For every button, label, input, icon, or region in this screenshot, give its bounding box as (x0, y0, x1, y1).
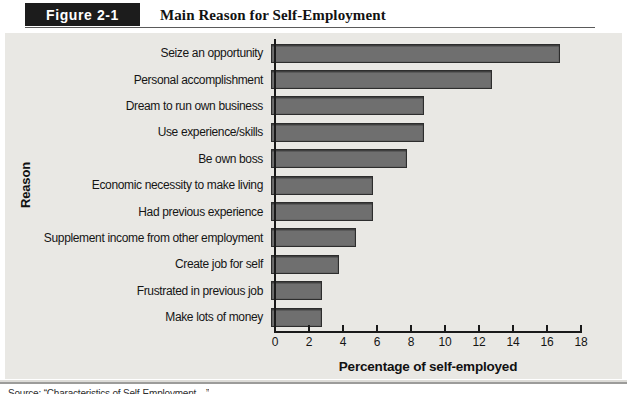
bar-track (271, 146, 577, 172)
bar-row: Be own boss (13, 146, 577, 172)
bar (271, 176, 373, 195)
x-tick-label: 18 (575, 335, 588, 349)
chart-panel: Reason Seize an opportunityPersonal acco… (5, 33, 622, 379)
bar-track (271, 172, 577, 198)
x-tick-mark (308, 325, 310, 331)
x-tick-mark (444, 325, 446, 331)
category-label: Economic necessity to make living (13, 178, 271, 192)
bar (271, 123, 424, 142)
x-tick-mark (478, 325, 480, 331)
x-tick-label: 10 (439, 335, 452, 349)
bar-track (271, 198, 577, 224)
bar-track (271, 66, 577, 92)
x-tick-label: 12 (473, 335, 486, 349)
figure-title: Main Reason for Self-Employment (160, 7, 386, 24)
x-tick-mark (546, 325, 548, 331)
bar-row: Personal accomplishment (13, 66, 577, 92)
bar (271, 228, 356, 247)
bar-row: Seize an opportunity (13, 40, 577, 66)
x-tick-label: 6 (374, 335, 380, 349)
bar (271, 96, 424, 115)
figure-label-badge: Figure 2-1 (25, 3, 140, 26)
bar-row: Dream to run own business (13, 93, 577, 119)
bar (271, 202, 373, 221)
bar-track (271, 225, 577, 251)
category-label: Use experience/skills (13, 125, 271, 139)
category-label: Make lots of money (13, 310, 271, 324)
category-label: Be own boss (13, 152, 271, 166)
x-tick-label: 14 (507, 335, 520, 349)
category-label: Supplement income from other employment (13, 231, 271, 245)
x-tick-label: 0 (272, 335, 278, 349)
category-label: Dream to run own business (13, 99, 271, 113)
x-tick-mark (512, 325, 514, 331)
figure-page: Figure 2-1 Main Reason for Self-Employme… (0, 0, 627, 394)
x-tick-mark (376, 325, 378, 331)
bar (271, 70, 492, 89)
bar (271, 44, 560, 63)
x-axis-ticks: 024681012141618 (275, 325, 581, 387)
y-axis-line (274, 39, 276, 333)
bar-track (271, 119, 577, 145)
bar-row: Use experience/skills (13, 119, 577, 145)
bottom-rule (0, 380, 627, 384)
bar-row: Economic necessity to make living (13, 172, 577, 198)
bar (271, 255, 339, 274)
category-label: Had previous experience (13, 205, 271, 219)
category-label: Create job for self (13, 257, 271, 271)
header-rule (25, 27, 595, 28)
x-axis-label: Percentage of self-employed (275, 359, 581, 374)
category-label: Personal accomplishment (13, 73, 271, 87)
bar-track (271, 251, 577, 277)
category-label: Frustrated in previous job (13, 284, 271, 298)
x-tick-mark (410, 325, 412, 331)
bar-row: Had previous experience (13, 198, 577, 224)
bar (271, 308, 322, 327)
x-tick-mark (342, 325, 344, 331)
x-tick-mark (274, 325, 276, 331)
bar-track (271, 40, 577, 66)
bar-track (271, 93, 577, 119)
bar-row: Create job for self (13, 251, 577, 277)
x-tick-label: 4 (340, 335, 346, 349)
bar (271, 149, 407, 168)
bar (271, 281, 322, 300)
x-tick-label: 8 (408, 335, 414, 349)
bar-rows: Seize an opportunityPersonal accomplishm… (13, 40, 577, 330)
source-note-clipped: Source: “Characteristics of Self-Employm… (8, 388, 209, 394)
bar-track (271, 278, 577, 304)
category-label: Seize an opportunity (13, 46, 271, 60)
x-tick-label: 16 (541, 335, 554, 349)
bar-row: Supplement income from other employment (13, 225, 577, 251)
bar-row: Frustrated in previous job (13, 278, 577, 304)
x-tick-mark (580, 325, 582, 331)
x-tick-label: 2 (306, 335, 312, 349)
